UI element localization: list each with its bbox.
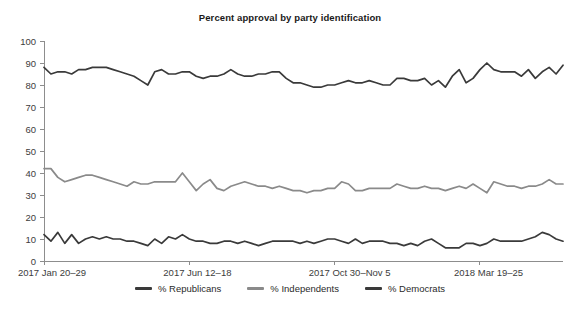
legend-item[interactable]: % Democrats bbox=[365, 283, 445, 294]
y-tick-label: 70 bbox=[25, 102, 36, 113]
x-tick-label: 2017 Oct 30–Nov 5 bbox=[309, 267, 391, 278]
legend-label: % Democrats bbox=[388, 283, 445, 294]
y-tick-label: 10 bbox=[25, 234, 36, 245]
line-chart-plot: 01020304050607080901002017 Jan 20–292017… bbox=[0, 0, 580, 313]
legend-item[interactable]: % Republicans bbox=[135, 283, 221, 294]
y-tick-label: 50 bbox=[25, 146, 36, 157]
legend-swatch-icon bbox=[247, 287, 264, 289]
x-tick-label: 2017 Jan 20–29 bbox=[18, 267, 86, 278]
x-tick-label: 2017 Jun 12–18 bbox=[163, 267, 231, 278]
legend-item[interactable]: % Independents bbox=[247, 283, 339, 294]
series-line-independents bbox=[44, 169, 563, 193]
y-tick-label: 0 bbox=[31, 256, 36, 267]
series-line-republicans bbox=[44, 63, 563, 87]
y-tick-label: 40 bbox=[25, 168, 36, 179]
y-tick-label: 100 bbox=[20, 36, 36, 47]
series-line-democrats bbox=[44, 232, 563, 247]
legend-label: % Independents bbox=[270, 283, 339, 294]
y-tick-label: 30 bbox=[25, 190, 36, 201]
y-tick-label: 20 bbox=[25, 212, 36, 223]
legend-swatch-icon bbox=[365, 287, 382, 289]
chart-container: Percent approval by party identification… bbox=[0, 0, 580, 313]
legend-swatch-icon bbox=[135, 287, 152, 289]
chart-legend: % Republicans% Independents% Democrats bbox=[0, 283, 580, 294]
y-tick-label: 80 bbox=[25, 80, 36, 91]
x-tick-label: 2018 Mar 19–25 bbox=[454, 267, 523, 278]
legend-label: % Republicans bbox=[158, 283, 221, 294]
y-tick-label: 60 bbox=[25, 124, 36, 135]
y-tick-label: 90 bbox=[25, 58, 36, 69]
